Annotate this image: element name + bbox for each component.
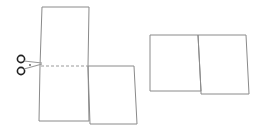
tall-paper-strip xyxy=(39,7,89,121)
attached-square-piece xyxy=(88,66,137,124)
rearranged-right-piece xyxy=(198,35,249,94)
diagram-canvas xyxy=(0,0,263,127)
rearranged-left-piece xyxy=(150,35,201,91)
scissors-icon xyxy=(17,55,42,74)
